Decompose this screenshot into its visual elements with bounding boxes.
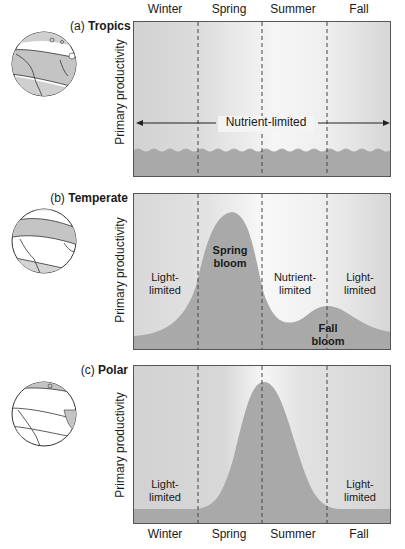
panel-a-y-axis-label: Primary productivity [113,22,127,162]
annotation-light-limited-right: Light- limited [332,271,388,297]
panel-c-letter: (c) [81,363,95,377]
annotation-light-limited-right: Light- limited [332,478,388,504]
season-label-top-spring: Spring [197,2,261,16]
season-label-top-summer: Summer [261,2,325,16]
chart-panel-polar: Light- limited Light- limited [133,365,391,524]
season-label-bottom-fall: Fall [327,527,391,541]
globe-polar-icon [10,380,78,448]
season-label-bottom-spring: Spring [197,527,261,541]
season-label-top-winter: Winter [133,2,197,16]
globe-temperate-icon [10,207,78,275]
annotation-nutrient-limited: Nutrient-limited [218,116,314,129]
annotation-spring-bloom: Spring bloom [200,244,260,270]
annotation-nutrient-limited: Nutrient- limited [265,271,325,297]
panel-b-y-axis-label: Primary productivity [113,200,127,340]
chart-panel-temperate: Light- limited Spring bloom Nutrient- li… [133,193,391,350]
chart-panel-tropics: Nutrient-limited [133,21,391,177]
season-label-bottom-summer: Summer [261,527,325,541]
annotation-light-limited-left: Light- limited [140,478,190,504]
panel-b-letter: (b) [50,191,65,205]
annotation-fall-bloom: Fall bloom [300,322,356,348]
globe-tropics-icon [10,30,78,98]
season-label-top-fall: Fall [327,2,391,16]
panel-c-y-axis-label: Primary productivity [113,375,127,515]
annotation-light-limited-left: Light- limited [140,271,190,297]
season-label-bottom-winter: Winter [133,527,197,541]
